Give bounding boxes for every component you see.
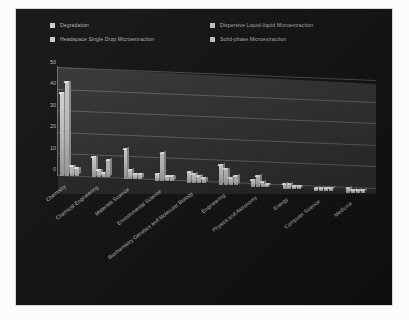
x-axis-label: Energy bbox=[273, 197, 289, 212]
bar-side-face bbox=[142, 173, 144, 178]
y-axis-tick-label: 20 bbox=[50, 124, 56, 129]
bar-group bbox=[251, 66, 271, 194]
x-axis-label: Medicine bbox=[333, 201, 353, 218]
legend-label: Solid-phase Microextraction bbox=[220, 37, 286, 42]
bar[interactable] bbox=[124, 149, 128, 179]
bar-series-container bbox=[58, 66, 376, 194]
bar[interactable] bbox=[102, 173, 106, 177]
y-axis-tick-label: 10 bbox=[50, 146, 56, 151]
legend-item-solid-phase-microextraction[interactable]: Solid-phase Microextraction bbox=[210, 37, 368, 42]
x-axis-label: Engineering bbox=[201, 193, 227, 215]
y-axis: 50403020100 bbox=[40, 61, 58, 179]
bar-group bbox=[219, 66, 239, 194]
bar[interactable] bbox=[106, 160, 110, 177]
legend-item-headspace-single-drop-microextraction[interactable]: Headspace Single Drop Microextraction bbox=[50, 37, 210, 42]
x-axis-labels: ChemistryChemical EngineeringMaterials S… bbox=[40, 179, 380, 274]
chart-panel: Degradation Dispersive Liquid-liquid Mic… bbox=[16, 9, 392, 305]
bar[interactable] bbox=[60, 94, 64, 176]
page-root: Degradation Dispersive Liquid-liquid Mic… bbox=[0, 0, 409, 320]
bar-group bbox=[346, 66, 366, 194]
x-axis-label: Chemistry bbox=[45, 184, 67, 203]
bar-group bbox=[124, 66, 144, 194]
y-axis-tick-label: 30 bbox=[50, 103, 56, 108]
bar-group bbox=[314, 66, 334, 194]
bar-group bbox=[283, 66, 303, 194]
legend-swatch-icon bbox=[210, 23, 215, 28]
legend-swatch-icon bbox=[50, 37, 55, 42]
legend-swatch-icon bbox=[50, 23, 55, 28]
bar-group bbox=[187, 66, 207, 194]
chart-legend: Degradation Dispersive Liquid-liquid Mic… bbox=[50, 23, 368, 42]
bar-side-face bbox=[110, 158, 112, 176]
legend-item-degradation[interactable]: Degradation bbox=[50, 23, 210, 28]
y-axis-tick-label: 50 bbox=[50, 60, 56, 65]
y-axis-tick-label: 0 bbox=[53, 167, 56, 172]
bar[interactable] bbox=[92, 158, 96, 177]
legend-label: Headspace Single Drop Microextraction bbox=[60, 37, 154, 42]
legend-label: Dispersive Liquid-liquid Microextraction bbox=[220, 23, 313, 28]
plot-area: 50403020100 bbox=[40, 66, 376, 196]
bar-side-face bbox=[69, 81, 71, 175]
bar[interactable] bbox=[75, 169, 79, 175]
bar-group bbox=[92, 66, 112, 194]
bar[interactable] bbox=[65, 83, 69, 175]
legend-swatch-icon bbox=[210, 37, 215, 42]
bar-group bbox=[60, 66, 80, 194]
x-axis-label: Computer Science bbox=[284, 199, 322, 230]
bar[interactable] bbox=[97, 171, 101, 177]
legend-item-dispersive-liquid-liquid-microextraction[interactable]: Dispersive Liquid-liquid Microextraction bbox=[210, 23, 368, 28]
y-axis-tick-label: 40 bbox=[50, 81, 56, 86]
bar-group bbox=[155, 66, 175, 194]
bar-side-face bbox=[79, 167, 81, 174]
legend-label: Degradation bbox=[60, 23, 89, 28]
